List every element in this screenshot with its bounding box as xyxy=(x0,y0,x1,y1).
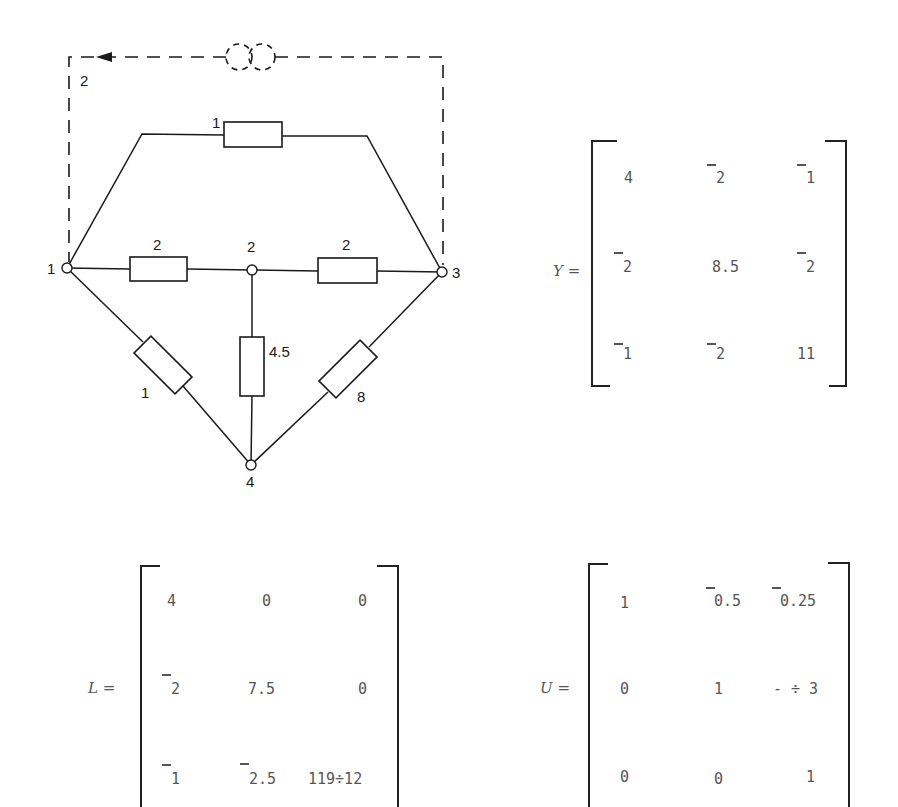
cell: 2 xyxy=(716,345,725,363)
cell: 2 xyxy=(806,258,815,276)
resistor-icon xyxy=(318,258,377,283)
left-bracket xyxy=(589,564,608,807)
cell: 2.5 xyxy=(249,770,276,788)
node-1: 1 xyxy=(47,260,72,277)
matrix-name: L = xyxy=(87,679,115,697)
branch-1-2: 2 xyxy=(67,236,252,281)
cell: 4 xyxy=(167,592,176,610)
dashed-wire-right xyxy=(275,57,443,265)
cell: 0 xyxy=(714,770,723,788)
current-source-branch: 2 xyxy=(69,44,443,265)
matrix-y: Y = 4 2 1 2 8.5 2 1 2 11 xyxy=(553,141,846,386)
branch-2-3: 2 xyxy=(252,236,442,283)
cell: 0 xyxy=(620,768,629,786)
node-label: 1 xyxy=(47,260,55,277)
branch-label: 2 xyxy=(342,236,350,253)
node-4: 4 xyxy=(246,460,256,490)
cell: 0.5 xyxy=(714,592,741,610)
branch-label: 1 xyxy=(212,114,220,131)
cell: 0 xyxy=(358,592,367,610)
node-label: 4 xyxy=(246,473,254,490)
cell: - ÷ 3 xyxy=(773,680,818,698)
cell: 1 xyxy=(171,770,180,788)
left-bracket xyxy=(592,141,617,386)
branch-1-4: 1 xyxy=(67,268,251,465)
cell: 0 xyxy=(358,680,367,698)
cell: 0.25 xyxy=(780,592,816,610)
cell: 1 xyxy=(714,680,723,698)
node-icon xyxy=(247,265,257,275)
right-bracket xyxy=(828,563,849,807)
node-2: 2 xyxy=(247,238,257,275)
matrix-l: L = 4 0 0 2 7.5 0 1 2.5 119÷12 xyxy=(87,566,398,807)
diagram-canvas: 2 1 2 2 4.5 xyxy=(0,0,898,807)
left-bracket xyxy=(141,566,160,807)
cell: 1 xyxy=(806,768,815,786)
cell: 4 xyxy=(624,169,633,187)
right-bracket xyxy=(377,566,398,807)
node-icon xyxy=(62,263,72,273)
cell: 2 xyxy=(171,680,180,698)
node-icon xyxy=(437,267,447,277)
matrix-u: U = 1 0.5 0.25 0 1 - ÷ 3 0 0 1 xyxy=(540,563,849,807)
branch-label: 2 xyxy=(153,236,161,253)
node-label: 3 xyxy=(452,264,460,281)
resistor-icon xyxy=(130,257,187,281)
cell: 2 xyxy=(716,169,725,187)
matrix-name: Y = xyxy=(553,262,580,280)
node-3: 3 xyxy=(437,264,460,281)
cell: 2 xyxy=(623,258,632,276)
branch-label: 1 xyxy=(141,384,149,401)
arrow-icon xyxy=(96,52,112,62)
source-circle-right-icon xyxy=(249,44,275,70)
source-circle-left-icon xyxy=(226,44,252,70)
source-label: 2 xyxy=(80,72,88,89)
cell: 8.5 xyxy=(712,258,739,276)
circuit-diagram: 2 1 2 2 4.5 xyxy=(47,44,460,490)
cell: 7.5 xyxy=(248,680,275,698)
cell: 1 xyxy=(623,345,632,363)
cell: 1 xyxy=(620,594,629,612)
branch-label: 4.5 xyxy=(269,343,290,360)
resistor-icon xyxy=(224,122,282,147)
cell: 0 xyxy=(262,592,271,610)
resistor-icon xyxy=(240,337,264,396)
resistor-icon xyxy=(319,340,377,398)
right-bracket xyxy=(825,141,846,386)
cell: 11 xyxy=(797,345,815,363)
branch-label: 8 xyxy=(357,388,365,405)
cell: 119÷12 xyxy=(308,770,362,788)
cell: 0 xyxy=(620,680,629,698)
matrix-name: U = xyxy=(540,679,570,697)
node-label: 2 xyxy=(247,238,255,255)
dashed-wire-left xyxy=(69,57,226,262)
node-icon xyxy=(246,460,256,470)
branch-3-4: 8 xyxy=(251,272,442,465)
cell: 1 xyxy=(806,169,815,187)
